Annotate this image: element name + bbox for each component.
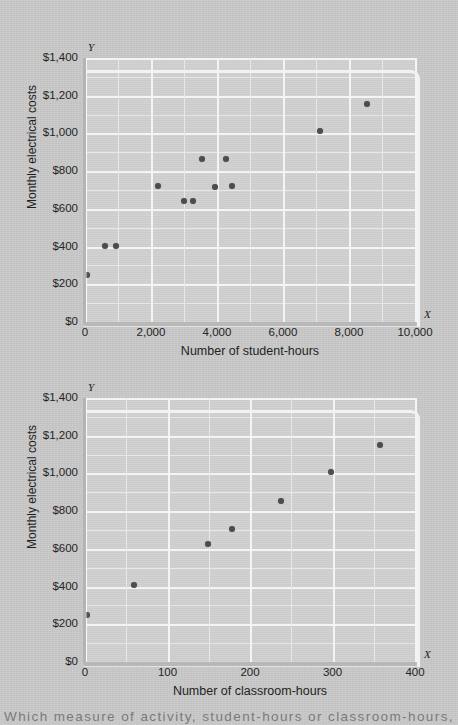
scatter-point xyxy=(278,498,284,504)
plot-wrapper-2: Y X Monthly electrical costs Number of c… xyxy=(0,340,458,680)
gridline-vertical-major xyxy=(217,58,219,322)
scatter-chart-student-hours: Y X Monthly electrical costs Number of s… xyxy=(0,0,458,370)
y-axis-line-1 xyxy=(83,58,86,324)
plot-area-1 xyxy=(85,58,415,322)
y-tick-label: $1,400 xyxy=(0,391,78,403)
x-tick-label: 100 xyxy=(158,666,177,678)
x-tick-label: 4,000 xyxy=(203,326,232,338)
y-tick-label: $1,200 xyxy=(0,89,78,101)
gridline-vertical-minor xyxy=(126,398,127,662)
gridline-vertical-minor xyxy=(374,398,375,662)
cut-off-caption: Which measure of activity, student-hours… xyxy=(0,711,458,725)
scatter-point xyxy=(113,243,119,249)
scatter-point xyxy=(229,183,235,189)
scatter-point xyxy=(328,469,334,475)
scatter-point xyxy=(155,183,161,189)
y-tick-label: $400 xyxy=(0,240,78,252)
y-tick-label: $1,000 xyxy=(0,466,78,478)
x-tick-label: 400 xyxy=(405,666,424,678)
gridline-vertical-minor xyxy=(118,58,119,322)
gridline-vertical-major xyxy=(349,58,351,322)
gridline-vertical-major xyxy=(415,58,417,322)
plot-area-2 xyxy=(85,398,415,662)
gridline-vertical-major xyxy=(250,398,252,662)
x-tick-label: 2,000 xyxy=(137,326,166,338)
y-tick-label: $0 xyxy=(0,655,78,667)
y-tick-label: $0 xyxy=(0,315,78,327)
x-tick-label: 0 xyxy=(82,326,88,338)
y-tick-label: $600 xyxy=(0,542,78,554)
y-tick-label: $800 xyxy=(0,504,78,516)
cut-off-caption-text: Which measure of activity, student-hours… xyxy=(0,711,458,725)
gridline-vertical-major xyxy=(168,398,170,662)
scatter-point xyxy=(317,128,323,134)
x-tick-label: 300 xyxy=(323,666,342,678)
scatter-point xyxy=(212,184,218,190)
scatter-point xyxy=(181,198,187,204)
x-tick-label: 10,000 xyxy=(397,326,432,338)
gridline-vertical-minor xyxy=(316,58,317,322)
gridline-vertical-minor xyxy=(250,58,251,322)
x-tick-label: 6,000 xyxy=(269,326,298,338)
gridline-vertical-major xyxy=(151,58,153,322)
gridline-vertical-major xyxy=(333,398,335,662)
y-tick-label: $200 xyxy=(0,277,78,289)
y-axis-letter-2: Y xyxy=(88,381,94,393)
gridline-vertical-minor xyxy=(184,58,185,322)
scatter-point xyxy=(131,582,137,588)
y-axis-line-2 xyxy=(83,398,86,664)
gridline-vertical-minor xyxy=(291,398,292,662)
plot-wrapper-1: Y X Monthly electrical costs Number of s… xyxy=(0,0,458,340)
scatter-point xyxy=(190,198,196,204)
scatter-point xyxy=(223,156,229,162)
x-tick-label: 8,000 xyxy=(335,326,364,338)
y-tick-label: $400 xyxy=(0,580,78,592)
gridline-vertical-minor xyxy=(382,58,383,322)
x-tick-label: 200 xyxy=(240,666,259,678)
scatter-chart-classroom-hours: Y X Monthly electrical costs Number of c… xyxy=(0,340,458,725)
scatter-point xyxy=(205,541,211,547)
scatter-point xyxy=(377,442,383,448)
y-axis-letter-1: Y xyxy=(88,41,94,53)
scatter-point xyxy=(229,526,235,532)
scatter-point xyxy=(199,156,205,162)
gridline-vertical-major xyxy=(283,58,285,322)
x-tick-label: 0 xyxy=(82,666,88,678)
gridline-vertical-major xyxy=(415,398,417,662)
x-axis-title-2: Number of classroom-hours xyxy=(85,684,415,698)
y-tick-label: $1,200 xyxy=(0,429,78,441)
scatter-point xyxy=(102,243,108,249)
scatter-point xyxy=(364,101,370,107)
y-tick-label: $600 xyxy=(0,202,78,214)
x-axis-letter-2: X xyxy=(424,648,431,660)
y-tick-label: $1,000 xyxy=(0,126,78,138)
x-axis-letter-1: X xyxy=(424,308,431,320)
x-axis-line-1 xyxy=(83,322,417,326)
y-tick-label: $1,400 xyxy=(0,51,78,63)
gridline-vertical-minor xyxy=(209,398,210,662)
y-tick-label: $800 xyxy=(0,164,78,176)
y-tick-label: $200 xyxy=(0,617,78,629)
